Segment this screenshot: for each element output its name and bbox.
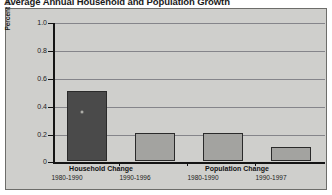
y-axis-title: Percent per Year <box>4 0 11 45</box>
y-tick-label-0.8: 0.8 <box>25 47 47 54</box>
y-tick-label-0.4: 0.4 <box>25 103 47 110</box>
y-tick-label-0.6: 0.6 <box>25 75 47 82</box>
period-label-household-1980-1990: 1980-1990 <box>33 174 101 182</box>
chart-title: Average Annual Household and Population … <box>4 0 328 7</box>
bar-household-1980-1990[interactable] <box>67 91 107 161</box>
y-tick-1.0 <box>48 23 53 24</box>
scan-artifact-dot-icon <box>80 110 84 114</box>
bar-population-1990-1997[interactable] <box>271 147 311 161</box>
chart-frame: Percent per Year <box>5 8 327 190</box>
period-label-population-1980-1990: 1980-1990 <box>169 174 237 182</box>
period-label-population-1990-1997: 1990-1997 <box>237 174 305 182</box>
y-axis-line <box>53 23 55 163</box>
gridline-0.6 <box>53 79 325 80</box>
bar-household-1990-1996[interactable] <box>135 133 175 161</box>
y-tick-0.8 <box>48 51 53 52</box>
group-label-household-change: Household Change <box>67 165 135 173</box>
plot-area <box>53 23 325 162</box>
x-axis-line <box>53 162 325 164</box>
y-tick-0.2 <box>48 135 53 136</box>
bar-population-1980-1990[interactable] <box>203 133 243 161</box>
period-label-household-1990-1996: 1990-1996 <box>101 174 169 182</box>
chart-figure: Average Annual Household and Population … <box>0 0 332 195</box>
gridline-1.0 <box>53 23 325 24</box>
y-tick-label-0.2: 0.2 <box>25 131 47 138</box>
gridline-0.8 <box>53 51 325 52</box>
y-tick-label-0: 0 <box>25 158 47 165</box>
y-tick-label-1.0: 1.0 <box>25 19 47 26</box>
y-tick-0.6 <box>48 79 53 80</box>
group-label-population-change: Population Change <box>203 165 271 173</box>
x-tick-2 <box>187 162 188 166</box>
y-tick-0.4 <box>48 107 53 108</box>
y-tick-0 <box>48 162 53 163</box>
